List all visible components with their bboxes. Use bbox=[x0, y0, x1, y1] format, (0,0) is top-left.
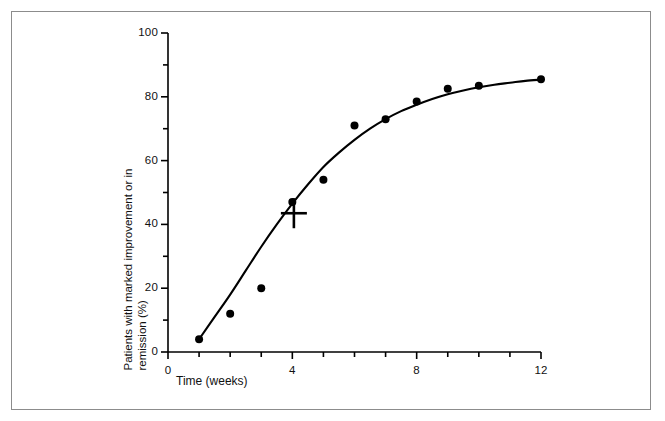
data-point-marker bbox=[382, 115, 390, 123]
data-point-markers bbox=[195, 75, 545, 343]
data-point-marker bbox=[475, 82, 483, 90]
data-point-marker bbox=[351, 122, 359, 130]
x-tick-label: 4 bbox=[272, 364, 312, 376]
plus-cross-marker bbox=[281, 198, 307, 228]
data-point-marker bbox=[537, 75, 545, 83]
y-axis-tick-marks bbox=[161, 33, 168, 352]
x-axis-tick-marks bbox=[168, 352, 541, 359]
data-point-marker bbox=[257, 284, 265, 292]
x-axis-title: Time (weeks) bbox=[176, 374, 248, 388]
data-point-marker bbox=[226, 310, 234, 318]
data-point-marker bbox=[444, 85, 452, 93]
data-point-marker bbox=[195, 335, 203, 343]
x-tick-label: 12 bbox=[521, 364, 561, 376]
y-tick-label: 80 bbox=[110, 90, 158, 102]
y-tick-label: 100 bbox=[110, 26, 158, 38]
cross-annotation-marker bbox=[281, 198, 307, 228]
fitted-curve-line bbox=[199, 80, 541, 340]
y-axis-title: Patients with marked improvement or in r… bbox=[104, 140, 148, 370]
data-point-marker bbox=[319, 176, 327, 184]
x-tick-label: 8 bbox=[397, 364, 437, 376]
y-axis-title-line-2: remission (%) bbox=[137, 300, 149, 370]
data-point-marker bbox=[413, 98, 421, 106]
y-axis-title-line-1: Patients with marked improvement or in bbox=[123, 168, 135, 370]
chart-plot-area bbox=[0, 0, 665, 421]
